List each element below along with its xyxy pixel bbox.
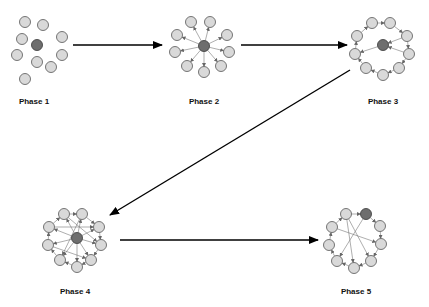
phase1-node [57,50,68,61]
phase3-edge [388,70,394,73]
phase2-node [222,30,233,41]
phase3-node [378,70,389,81]
phase5-edge [370,218,376,223]
phase3-node [367,18,378,29]
phase4-node [59,209,70,220]
phase5-node [324,240,335,251]
phase1-node [32,57,43,68]
phase5-node [366,256,377,267]
phase2-edge [209,37,222,43]
phase2-edge [205,27,208,40]
phase2-node [205,17,216,28]
phase4-edge [67,219,75,233]
phase5-hub-node [361,209,372,220]
phase4-edge [80,243,88,256]
phase3-edge [402,58,406,63]
phase3-node [385,18,396,29]
phase4-node [96,240,107,251]
phase-1-label: Phase 1 [19,97,50,106]
phase5-edge [342,263,349,266]
phase4-node [44,222,55,233]
network-evolution-diagram: Phase 1 Phase 2 Phase 3 Phase 4 Phase 5 [0,0,429,307]
phase1-node [38,20,49,31]
phase4-edge [94,250,98,256]
phase2-hub-node [199,41,210,52]
phase5-edge [374,249,378,257]
phase4-node [72,262,83,273]
phase1-node [12,50,23,61]
phase4-node [77,209,88,220]
phase2-edge [191,50,201,62]
phase5-node [341,209,352,220]
phase5-edge [337,229,376,242]
phase3-edge [358,58,362,63]
phase-4-label: Phase 4 [60,287,91,296]
phase1-node [17,34,28,45]
phase5-node [327,222,338,233]
phase1-hub-node [32,40,43,51]
phase4-node [43,240,54,251]
phase-2-label: Phase 2 [189,97,220,106]
phase3-node [394,63,405,74]
phase4-edge [54,229,72,236]
phase5-node [349,263,360,274]
phase3-edge [356,41,357,48]
phase4-edge [51,249,56,255]
phase3-edge [388,47,404,52]
phase2-node [182,61,193,72]
phase4-edge [86,217,94,223]
phase4-edge [100,232,101,239]
phase3-node [361,63,372,74]
phase2-edge [194,27,202,41]
phase2-node [172,30,183,41]
phase4-node [86,255,97,266]
phase3-edge [361,27,368,33]
phase1-node [46,62,57,73]
phase2-node [199,67,210,78]
phase5-node [375,221,386,232]
phase1-node [57,32,68,43]
phase3-edge [394,26,402,32]
phase2-node [186,17,197,28]
phase-5-label: Phase 5 [341,287,372,296]
phase3-node [404,49,415,60]
phase3-node [350,49,361,60]
phase3-edge [408,41,409,48]
phase2-edge [180,47,198,51]
phase5-edge [331,250,334,256]
phase5-edge [359,263,366,266]
phase3-hub-node [378,40,389,51]
phase4-edge [82,240,95,244]
phase2-node [170,47,181,58]
phase2-edge [209,47,223,50]
phase5-node [376,239,387,250]
phase3-edge [371,70,378,73]
phase3-edge [388,38,402,43]
phase5-node [332,256,343,267]
phase2-edge [208,50,218,62]
phase4-edge [82,262,86,264]
phase2-node [216,61,227,72]
phase-3-label: Phase 3 [368,97,399,106]
phase1-node [20,74,31,85]
phase5-edge [336,218,342,224]
phase2-edge [182,37,199,44]
phase3-edge [360,47,378,53]
phase1-node [20,17,31,28]
flow-arrow-phase3-to-phase4 [110,70,350,215]
phase-flow-arrows [73,45,350,240]
phase4-edge [53,218,60,224]
phase3-node [352,31,363,42]
phase4-edge [65,262,72,265]
phase2-node [224,47,235,58]
phase4-node [94,222,105,233]
phase3-node [402,31,413,42]
phase4-hub-node [72,233,83,244]
phase5-edge [330,232,331,239]
phase4-node [55,255,66,266]
